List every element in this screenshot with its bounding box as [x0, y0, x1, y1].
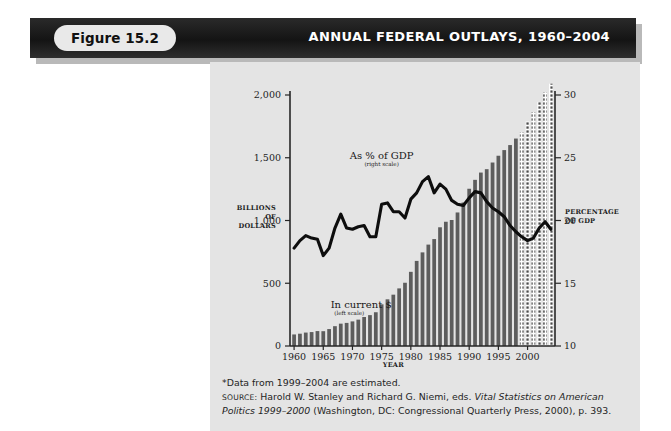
line-series-percent-of-gdp [294, 177, 551, 256]
y-axis-tick-label: 0 [275, 340, 281, 351]
footnote-estimated-note: *Data from 1999–2004 are estimated. [222, 376, 634, 389]
y-axis-tick-label: 1,500 [254, 152, 281, 163]
source-label: SOURCE: [222, 393, 257, 402]
banner-bar: Figure 15.2 ANNUAL FEDERAL OUTLAYS, 1960… [30, 18, 636, 58]
figure-title: ANNUAL FEDERAL OUTLAYS, 1960–2004 [309, 29, 610, 44]
bar [298, 334, 302, 346]
bar [502, 150, 506, 346]
bar [461, 203, 465, 346]
bar [339, 324, 343, 346]
bar-estimated [537, 102, 541, 346]
x-axis-tick-label: 1990 [457, 351, 481, 362]
bar [304, 333, 308, 346]
svg-text:In current $: In current $ [331, 299, 392, 310]
x-axis-tick-label: 2000 [515, 351, 539, 362]
svg-text:DOLLARS: DOLLARS [239, 222, 277, 230]
y-axis-tick-label: 500 [263, 278, 281, 289]
bar-estimated [532, 112, 536, 346]
bar [391, 295, 395, 346]
svg-text:PERCENTAGE: PERCENTAGE [565, 208, 619, 216]
bar-estimated [549, 84, 553, 346]
bar [497, 156, 501, 346]
bar-estimated [543, 92, 547, 346]
y2-axis-tick-label: 10 [564, 340, 576, 351]
bar [415, 261, 419, 346]
svg-text:(right scale): (right scale) [364, 161, 398, 168]
bar [380, 304, 384, 346]
svg-text:(left scale): (left scale) [334, 310, 364, 316]
bar [351, 321, 355, 346]
y2-axis-tick-label: 15 [564, 278, 576, 289]
bar [514, 139, 518, 346]
bar [321, 331, 325, 346]
annotation-percent-of-gdp: As % of GDP (right scale) [349, 150, 414, 168]
bar [374, 312, 378, 346]
y-axis-right-title: PERCENTAGE OF GDP [565, 208, 619, 225]
figure-number-label: Figure 15.2 [71, 30, 159, 46]
x-axis-title: YEAR [382, 361, 404, 369]
bar [444, 222, 448, 346]
figure-number-pill: Figure 15.2 [54, 25, 176, 51]
bar-estimated [526, 121, 530, 346]
y2-axis-tick-label: 30 [564, 89, 576, 100]
bar [397, 288, 401, 346]
footnote-source: SOURCE: Harold W. Stanley and Richard G.… [222, 390, 634, 417]
svg-text:BILLIONS: BILLIONS [237, 204, 276, 212]
bar [345, 323, 349, 346]
x-axis-tick-label: 1985 [428, 351, 452, 362]
bar [450, 220, 454, 346]
svg-text:As % of GDP: As % of GDP [349, 150, 414, 161]
bar [473, 180, 477, 346]
bar [409, 272, 413, 346]
bar [426, 245, 430, 346]
bar [485, 169, 489, 346]
bar [316, 331, 320, 346]
bar [403, 283, 407, 346]
source-authors: Harold W. Stanley and Richard G. Niemi, … [257, 391, 474, 402]
figure-header-banner: Figure 15.2 ANNUAL FEDERAL OUTLAYS, 1960… [30, 18, 642, 62]
bar [327, 329, 331, 346]
svg-text:OF GDP: OF GDP [565, 217, 595, 225]
x-axis-tick-label: 1970 [340, 351, 364, 362]
y-axis-tick-label: 2,000 [254, 89, 281, 100]
x-axis-tick-label: 1995 [486, 351, 510, 362]
bar [491, 163, 495, 346]
bar [356, 320, 360, 346]
bar [310, 332, 314, 346]
bar [292, 334, 296, 346]
bar [479, 173, 483, 346]
bar [456, 212, 460, 346]
bar [438, 227, 442, 346]
bar [467, 189, 471, 346]
bar [432, 239, 436, 346]
bar [362, 317, 366, 346]
bar [508, 145, 512, 346]
bar [333, 326, 337, 346]
y2-axis-tick-label: 25 [564, 152, 576, 163]
x-axis-tick-label: 1960 [282, 351, 306, 362]
figure-footnotes: *Data from 1999–2004 are estimated. SOUR… [222, 376, 634, 417]
bar [368, 315, 372, 346]
source-publisher: (Washington, DC: Congressional Quarterly… [310, 405, 611, 416]
svg-text:OF: OF [265, 213, 276, 221]
x-axis-tick-label: 1965 [311, 351, 335, 362]
bar [421, 252, 425, 346]
